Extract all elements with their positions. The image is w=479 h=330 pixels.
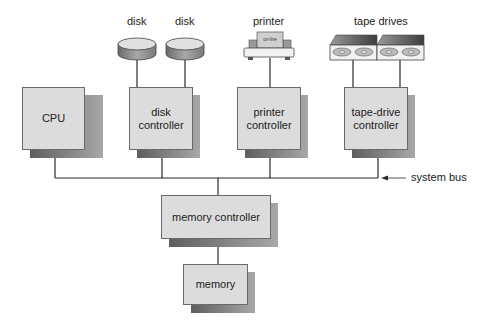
arrow-icon: [381, 176, 388, 181]
tape-drive-icon-left: [330, 35, 377, 60]
printer-icon: on-line: [244, 32, 294, 60]
disk-label-left: disk: [127, 15, 147, 27]
memory-controller-label: memory controller: [172, 211, 260, 224]
tape-controller-label-line2: controller: [352, 119, 401, 132]
cpu-label: CPU: [42, 112, 65, 125]
system-bus-label: system bus: [411, 171, 467, 183]
system-bus-diagram: on-line disk disk printer tape drives CP…: [0, 0, 479, 330]
disk-label-right: disk: [175, 15, 195, 27]
disk-controller-label-line1: disk: [138, 106, 183, 119]
disk-controller-label-line2: controller: [138, 119, 183, 132]
memory-box: memory: [183, 264, 248, 305]
tape-drives-label: tape drives: [354, 15, 408, 27]
disk-icon-right: [166, 38, 204, 60]
disk-icon-left: [118, 38, 156, 60]
printer-display-text: on-line: [263, 37, 277, 42]
tape-drive-icon-right: [377, 35, 424, 60]
tape-controller-label-line1: tape-drive: [352, 106, 401, 119]
printer-controller-box: printer controller: [237, 87, 301, 150]
memory-controller-box: memory controller: [161, 195, 271, 239]
disk-controller-box: disk controller: [129, 87, 193, 150]
printer-controller-label-line1: printer: [246, 106, 291, 119]
memory-label: memory: [196, 278, 236, 291]
printer-controller-label-line2: controller: [246, 119, 291, 132]
cpu-box: CPU: [22, 87, 85, 150]
printer-label: printer: [253, 15, 284, 27]
tape-controller-box: tape-drive controller: [344, 87, 408, 150]
